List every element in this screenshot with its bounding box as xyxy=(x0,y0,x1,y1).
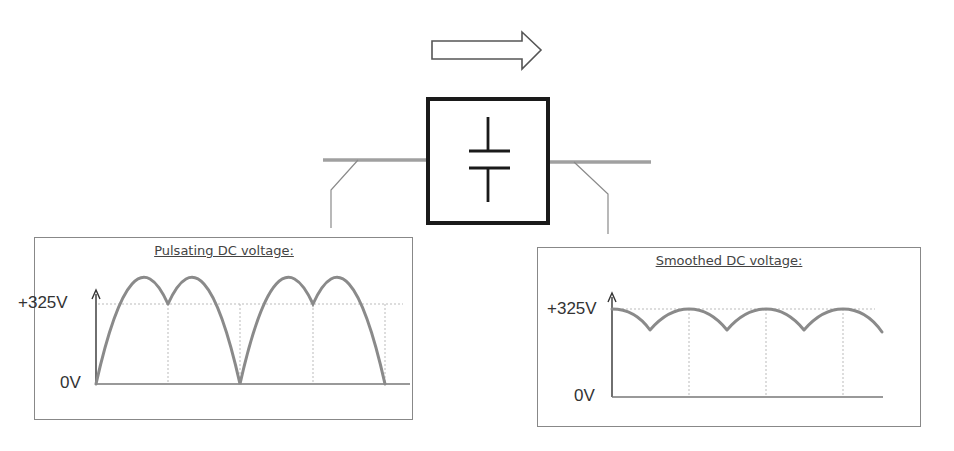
flow-arrow-icon xyxy=(432,32,541,69)
smoothed-bottom-label: 0V xyxy=(574,386,595,406)
diagram-canvas xyxy=(0,0,954,451)
capacitor-smoothing-diagram: Pulsating DC voltage: +325V 0V Smoothed … xyxy=(0,0,954,451)
smoothed-waveform xyxy=(612,309,882,332)
pulsating-panel-title: Pulsating DC voltage: xyxy=(154,243,294,258)
input-leader-line xyxy=(331,160,358,228)
pulsating-panel-frame xyxy=(35,238,413,420)
pulsating-bottom-label: 0V xyxy=(60,373,81,393)
output-leader-line xyxy=(574,162,608,234)
smoothed-panel-title: Smoothed DC voltage: xyxy=(656,253,803,268)
pulsating-top-label: +325V xyxy=(18,293,68,313)
smoothed-gridlines xyxy=(614,309,875,397)
smoothed-top-label: +325V xyxy=(547,299,597,319)
